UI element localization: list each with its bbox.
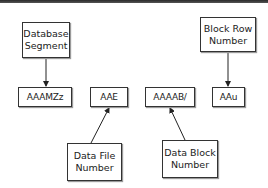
database-segment-box: Database Segment: [22, 22, 70, 58]
label-line: Block Row: [204, 23, 252, 35]
label-line: Number: [164, 159, 215, 171]
label-line: Number: [204, 35, 252, 47]
rowid-segment-part-box: AAAMZz: [18, 87, 72, 107]
label-line: Segment: [23, 40, 68, 52]
block-row-number-box: Block Row Number: [200, 17, 256, 52]
rowid-segment-value: AAAMZz: [27, 91, 63, 103]
data-block-number-box: Data Block Number: [162, 140, 218, 178]
data-file-number-box: Data File Number: [67, 143, 122, 181]
rowid-row-part-box: AAu: [212, 87, 245, 107]
rowid-block-part-box: AAAAB/: [145, 87, 195, 107]
arrow-data-file-number: [91, 108, 109, 143]
arrow-data-block-number: [170, 108, 185, 140]
rowid-file-part-box: AAE: [90, 87, 128, 107]
rowid-row-value: AAu: [220, 91, 238, 103]
label-line: Number: [74, 162, 116, 174]
rowid-file-value: AAE: [100, 91, 118, 103]
rowid-block-value: AAAAB/: [153, 91, 186, 103]
label-line: Data File: [74, 150, 116, 162]
label-line: Database: [23, 28, 68, 40]
label-line: Data Block: [164, 147, 215, 159]
